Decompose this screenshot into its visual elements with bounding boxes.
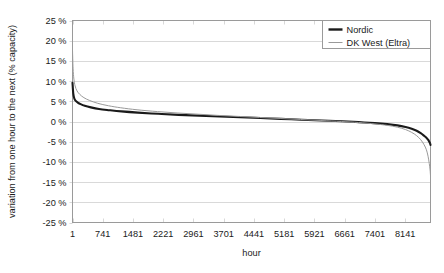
y-tick-label: 5 % — [51, 97, 67, 107]
y-tick-label: 0 % — [51, 117, 67, 127]
x-tick-label: 4441 — [244, 229, 264, 239]
y-tick-label: 10 % — [46, 77, 67, 87]
x-tick-label: 1 — [70, 229, 75, 239]
x-tick-label: 5181 — [274, 229, 294, 239]
y-tick-label: -25 % — [42, 218, 66, 228]
y-tick-label: -20 % — [42, 198, 66, 208]
legend: NordicDK West (Eltra) — [323, 21, 431, 49]
x-tick-label: 741 — [95, 229, 110, 239]
legend-label: Nordic — [347, 25, 374, 35]
y-axis-title: variation from one hour to the next (% c… — [7, 25, 17, 218]
x-axis-title: hour — [242, 248, 260, 258]
x-tick-label: 8141 — [395, 229, 415, 239]
y-tick-label: -15 % — [42, 178, 66, 188]
y-tick-label: -10 % — [42, 157, 66, 167]
chart-container: 25 %20 %15 %10 %5 %0 %-5 %-10 %-15 %-20 … — [0, 0, 444, 273]
y-tick-label: 25 % — [46, 16, 67, 26]
y-tick-label: 15 % — [46, 56, 67, 66]
x-tick-label: 6661 — [334, 229, 354, 239]
x-tick-label: 2221 — [153, 229, 173, 239]
x-tick-label: 5921 — [304, 229, 324, 239]
y-tick-label: -5 % — [48, 137, 67, 147]
y-tick-label: 20 % — [46, 36, 67, 46]
x-tick-label: 2961 — [183, 229, 203, 239]
x-tick-label: 7401 — [365, 229, 385, 239]
x-tick-label: 3701 — [214, 229, 234, 239]
x-tick-label: 1481 — [123, 229, 143, 239]
line-chart: 25 %20 %15 %10 %5 %0 %-5 %-10 %-15 %-20 … — [0, 0, 444, 273]
legend-label: DK West (Eltra) — [347, 38, 411, 48]
